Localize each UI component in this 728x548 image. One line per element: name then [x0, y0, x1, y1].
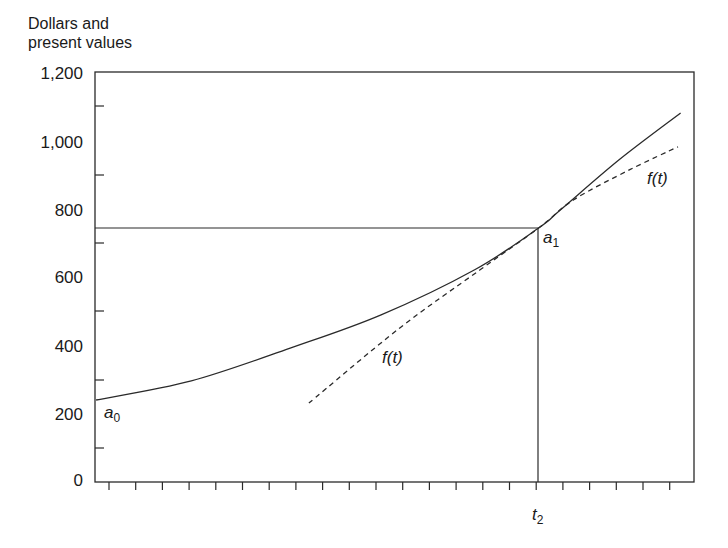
plot-frame [95, 72, 694, 482]
y-tick-label-400: 400 [23, 337, 83, 357]
annotation-f-t-upper: f(t) [647, 169, 668, 189]
y-tick-label-1200: 1,200 [23, 64, 83, 84]
annotation-a1: a1 [543, 228, 559, 250]
annotation-a0-sub: 0 [113, 411, 120, 425]
x-tick-label-t2-sub: 2 [537, 513, 544, 527]
annotation-a1-sub: 1 [552, 236, 559, 250]
y-tick-label-1000: 1,000 [23, 133, 83, 153]
y-tick-label-800: 800 [23, 201, 83, 221]
y-tick-label-200: 200 [23, 405, 83, 425]
y-tick-label-0: 0 [23, 471, 83, 491]
annotation-f-t-lower: f(t) [382, 348, 403, 368]
x-ticks [109, 482, 670, 490]
chart-plot [0, 0, 728, 548]
f-t-dashed-curve [309, 147, 678, 403]
annotation-a0: a0 [104, 403, 120, 425]
y-minor-ticks [95, 106, 104, 448]
y-tick-label-600: 600 [23, 268, 83, 288]
x-tick-label-t2: t2 [532, 505, 543, 527]
